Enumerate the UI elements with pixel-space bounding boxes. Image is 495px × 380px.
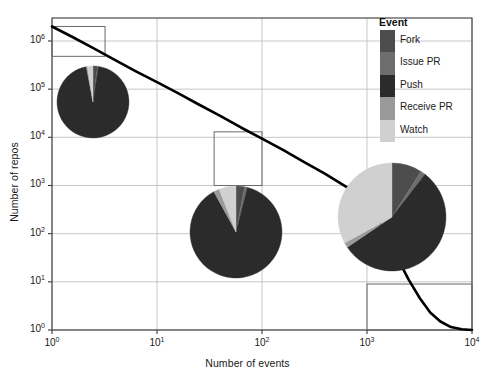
legend-swatch-receive-pr	[380, 97, 395, 119]
x-tick-label: 101	[140, 337, 174, 348]
x-tick-label: 103	[350, 337, 384, 348]
legend-label-issue-pr: Issue PR	[400, 56, 441, 67]
y-tick-label: 101	[11, 275, 45, 286]
x-tick-label: 100	[35, 337, 69, 348]
legend-label-watch: Watch	[400, 124, 428, 135]
x-axis-label: Number of events	[0, 357, 495, 369]
legend-color-bar	[380, 30, 395, 142]
legend-swatch-push	[380, 75, 395, 97]
y-tick-label: 104	[11, 130, 45, 141]
legend-swatch-fork	[380, 30, 395, 52]
legend-title: Event	[379, 16, 408, 28]
legend-swatch-issue-pr	[380, 52, 395, 74]
y-tick-label: 102	[11, 227, 45, 238]
y-tick-label: 105	[11, 82, 45, 93]
chart-figure: Number of events Number of repos 1001011…	[0, 0, 495, 380]
legend: Event ForkIssue PRPushReceive PRWatch	[379, 16, 489, 144]
y-tick-label: 106	[11, 34, 45, 45]
legend-label-receive-pr: Receive PR	[400, 101, 453, 112]
x-tick-label: 104	[455, 337, 489, 348]
legend-label-fork: Fork	[400, 34, 420, 45]
x-tick-label: 102	[245, 337, 279, 348]
y-tick-label: 103	[11, 178, 45, 189]
legend-label-push: Push	[400, 79, 423, 90]
y-tick-label: 100	[11, 323, 45, 334]
legend-swatch-watch	[380, 120, 395, 142]
